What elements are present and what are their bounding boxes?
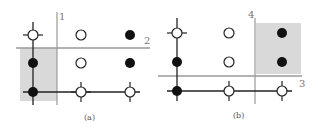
point-filled [277,28,287,38]
point-filled [172,57,182,67]
point-filled [277,57,287,67]
split-label-4: 4 [248,9,254,20]
point-open [224,28,234,38]
point-open [76,30,86,40]
shaded-region-a [20,48,57,101]
point-filled [28,58,38,68]
point-filled [125,30,135,40]
point-open [277,86,287,96]
caption-b: (b) [233,111,244,120]
point-filled [172,86,182,96]
panel-a: 1 2 (a) [16,11,150,122]
split-label-3: 3 [299,78,305,89]
point-open [172,28,182,38]
point-filled [125,58,135,68]
split-label-1: 1 [59,11,65,22]
point-open [76,58,86,68]
point-open [28,30,38,40]
point-open [224,86,234,96]
point-open [224,57,234,67]
panel-b: 4 3 (b) [158,9,305,120]
figure-canvas: 1 2 (a) 4 3 (b) [0,0,318,133]
caption-a: (a) [84,113,95,122]
point-filled [28,87,38,97]
split-label-2: 2 [144,35,150,46]
point-open [125,87,135,97]
point-open [76,87,86,97]
